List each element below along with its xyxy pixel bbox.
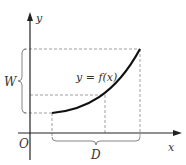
w-brace — [18, 49, 26, 113]
diagram-canvas: y x O y = f(x) W D — [0, 0, 186, 165]
x-axis-arrow-icon — [173, 130, 182, 136]
y-axis-arrow-icon — [27, 12, 33, 21]
x-axis-label: x — [168, 141, 175, 154]
d-brace — [52, 137, 140, 145]
origin-label: O — [19, 137, 29, 151]
guide-lines — [24, 49, 140, 137]
function-label: y = f(x) — [75, 71, 117, 84]
w-label: W — [4, 75, 18, 89]
function-diagram: y x O y = f(x) W D — [0, 0, 186, 165]
y-axis-label: y — [35, 12, 43, 25]
d-label: D — [90, 148, 101, 162]
axes — [18, 12, 182, 160]
